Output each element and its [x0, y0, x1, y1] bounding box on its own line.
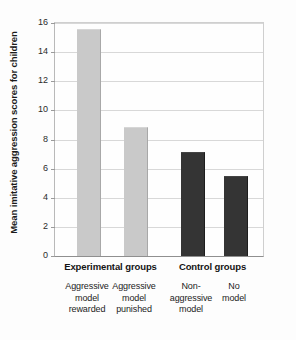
- y-axis-tickmark: [51, 227, 55, 228]
- y-axis-title: Mean imitative aggression scores for chi…: [0, 0, 26, 265]
- y-axis-tick-label: 10: [38, 104, 48, 114]
- bar: [124, 127, 148, 256]
- y-axis-tick-labels: 1614121086420: [26, 0, 52, 265]
- y-axis-title-text: Mean imitative aggression scores for chi…: [8, 31, 19, 233]
- bar-category-label-line: model: [165, 304, 217, 316]
- y-axis-tickmark: [51, 169, 55, 170]
- bar: [77, 29, 101, 256]
- y-axis-tickmark: [51, 23, 55, 24]
- y-axis-tickmark: [51, 52, 55, 53]
- y-axis-tick-label: 16: [38, 17, 48, 27]
- y-axis-tick-label: 12: [38, 75, 48, 85]
- bar-category-labels: AggressivemodelrewardedAggressivemodelpu…: [54, 281, 264, 327]
- y-axis-tickmark: [51, 256, 55, 257]
- bar-chart-figure: Mean imitative aggression scores for chi…: [0, 0, 296, 340]
- y-axis-tickmark: [51, 198, 55, 199]
- group-header: Control groups: [153, 261, 273, 272]
- y-axis-tick-label: 2: [43, 221, 48, 231]
- y-axis-tickmark: [51, 110, 55, 111]
- y-axis-tickmark: [51, 81, 55, 82]
- y-axis-tick-label: 0: [43, 250, 48, 260]
- bar-category-label-line: Aggressive: [61, 281, 113, 293]
- bar-category-label-line: Aggressive: [108, 281, 160, 293]
- bar-category-label-line: rewarded: [61, 304, 113, 316]
- bar-category-label: Aggressivemodelpunished: [108, 281, 160, 316]
- bar-category-label-line: No: [208, 281, 260, 293]
- y-axis-tick-label: 8: [43, 134, 48, 144]
- bar-category-label-line: model: [61, 293, 113, 305]
- y-axis-tickmark: [51, 140, 55, 141]
- bar-category-label-line: punished: [108, 304, 160, 316]
- bar-category-label-line: model: [208, 293, 260, 305]
- y-axis-tick-label: 6: [43, 163, 48, 173]
- y-axis-tick-label: 4: [43, 192, 48, 202]
- group-headers: Experimental groupsControl groups: [54, 261, 264, 279]
- y-axis-tick-label: 14: [38, 46, 48, 56]
- bar: [181, 152, 205, 256]
- bar: [224, 176, 248, 256]
- bar-category-label: Aggressivemodelrewarded: [61, 281, 113, 316]
- bar-category-label-line: model: [108, 293, 160, 305]
- plot-area: [54, 22, 264, 257]
- bar-category-label: Nomodel: [208, 281, 260, 304]
- gridline: [55, 23, 263, 24]
